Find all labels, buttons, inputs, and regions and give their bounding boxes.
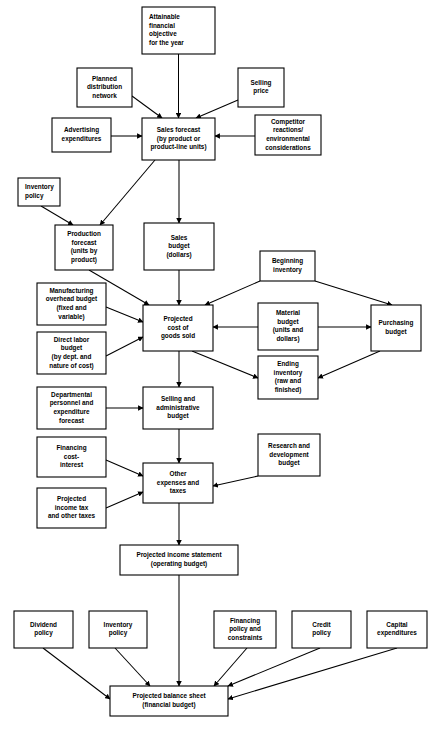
node-selling-price: Sellingprice <box>238 68 284 107</box>
node-label-attainable-financial-objective: financial <box>149 22 175 29</box>
edge-planned-distribution-to-sales-forecast <box>132 96 162 118</box>
node-departmental-personnel-forecast: Departmentalpersonnel andexpenditurefore… <box>37 387 106 429</box>
node-label-advertising-expenditures: Advertising <box>64 126 99 134</box>
node-label-attainable-financial-objective: for the year <box>149 39 184 47</box>
node-label-production-forecast: product) <box>71 256 97 264</box>
node-label-competitor-reactions: Competitor <box>271 118 306 126</box>
node-label-purchasing-budget: budget <box>385 328 407 336</box>
edge-cost-of-goods-to-ending-inventory <box>192 351 258 378</box>
node-label-projected-income-tax: Projected <box>57 495 86 503</box>
node-label-purchasing-budget: Purchasing <box>379 319 414 327</box>
node-label-material-budget: dollars) <box>276 335 299 343</box>
node-label-planned-distribution-network: distribution <box>87 83 122 90</box>
node-label-research-development-budget: Research and <box>268 442 310 449</box>
node-label-projected-income-statement: (operating budget) <box>151 560 207 568</box>
node-label-manufacturing-overhead-budget: (fixed and <box>56 304 86 312</box>
node-label-beginning-inventory: Beginning <box>272 257 303 265</box>
node-label-projected-balance-sheet: Projected balance sheet <box>132 692 206 700</box>
node-label-advertising-expenditures: expenditures <box>62 135 102 143</box>
node-projected-income-tax: Projectedincome taxand other taxes <box>37 488 106 528</box>
node-label-dividend-policy: Dividend <box>30 621 57 628</box>
node-label-beginning-inventory: inventory <box>273 266 302 274</box>
node-label-manufacturing-overhead-budget: Manufacturing <box>49 287 93 295</box>
node-label-projected-income-tax: and other taxes <box>48 512 96 519</box>
node-label-selling-price: price <box>253 87 269 95</box>
node-label-projected-income-tax: income tax <box>55 504 89 511</box>
node-label-inventory-policy-bottom: policy <box>109 629 128 637</box>
node-label-sales-forecast: Sales forecast <box>157 126 201 133</box>
node-sales-forecast: Sales forecast(by product orproduct-line… <box>142 118 215 160</box>
edge-sales-forecast-to-production-forecast <box>100 160 155 225</box>
edge-inventory-policy-bottom-to-balance-sheet <box>115 648 150 686</box>
node-label-material-budget: Material <box>276 309 300 316</box>
node-label-production-forecast: Production <box>67 230 101 237</box>
node-dividend-policy: Dividendpolicy <box>14 611 73 648</box>
node-research-development-budget: Research anddevelopmentbudget <box>258 434 320 476</box>
node-beginning-inventory: Beginninginventory <box>260 251 315 281</box>
edge-manufacturing-overhead-to-cost-of-goods <box>106 307 143 322</box>
node-label-direct-labor-budget: (by dept. and <box>52 353 92 361</box>
node-sales-budget: Salesbudget(dollars) <box>144 223 214 270</box>
node-label-credit-policy: policy <box>312 629 331 637</box>
node-label-financing-cost-interest: Financing <box>56 444 86 452</box>
node-label-production-forecast: (units by <box>71 247 98 255</box>
node-label-production-forecast: forecast <box>72 239 98 246</box>
node-label-selling-price: Selling <box>251 79 272 87</box>
node-label-manufacturing-overhead-budget: overhead budget <box>46 295 98 303</box>
node-label-sales-budget: Sales <box>171 234 188 241</box>
node-label-dividend-policy: policy <box>34 629 53 637</box>
node-competitor-reactions: Competitorreactions/environmentalconside… <box>255 115 321 155</box>
node-label-attainable-financial-objective: objective <box>149 30 177 38</box>
node-label-projected-income-statement: Projected income statement <box>136 551 222 559</box>
node-label-competitor-reactions: environmental <box>266 135 310 142</box>
edge-beginning-inventory-to-purchasing <box>315 281 392 305</box>
node-label-ending-inventory: (raw and <box>275 377 301 385</box>
node-label-financing-cost-interest: cost- <box>64 453 79 460</box>
node-inventory-policy-bottom: Inventorypolicy <box>89 611 147 648</box>
node-projected-income-statement: Projected income statement(operating bud… <box>120 545 238 575</box>
node-label-sales-forecast: product-line units) <box>150 143 206 151</box>
node-financing-cost-interest: Financingcost-interest <box>37 437 106 477</box>
node-label-sales-budget: (dollars) <box>166 251 191 259</box>
node-manufacturing-overhead-budget: Manufacturingoverhead budget(fixed andva… <box>37 283 106 325</box>
node-label-financing-policy-constraints: policy and <box>229 625 261 633</box>
node-financing-policy-constraints: Financingpolicy andconstraints <box>214 611 276 648</box>
edge-research-dev-to-other-expenses <box>213 476 258 486</box>
edge-purchasing-to-ending-inventory <box>318 351 380 378</box>
node-label-sales-forecast: (by product or <box>157 135 201 143</box>
node-label-planned-distribution-network: Planned <box>92 75 117 82</box>
flowchart-canvas: Attainablefinancialobjectivefor the year… <box>0 0 442 735</box>
node-label-departmental-personnel-forecast: expenditure <box>53 408 90 416</box>
edge-direct-labor-to-cost-of-goods <box>106 337 143 356</box>
node-attainable-financial-objective: Attainablefinancialobjectivefor the year <box>142 7 215 54</box>
node-label-capital-expenditures: Capital <box>386 621 408 629</box>
node-label-ending-inventory: finished) <box>275 386 302 394</box>
node-label-inventory-policy-top: policy <box>25 192 44 200</box>
node-other-expenses-and-taxes: Otherexpenses andtaxes <box>143 463 213 503</box>
node-label-selling-administrative-budget: Selling and <box>161 395 195 403</box>
node-label-other-expenses-and-taxes: expenses and <box>157 479 199 487</box>
node-label-direct-labor-budget: nature of cost) <box>49 362 93 370</box>
node-label-inventory-policy-top: Inventory <box>25 183 54 191</box>
node-label-projected-cost-of-goods-sold: goods sold <box>161 332 195 340</box>
node-credit-policy: Creditpolicy <box>292 611 351 648</box>
node-label-inventory-policy-bottom: Inventory <box>104 621 133 629</box>
node-label-financing-cost-interest: interest <box>60 461 84 468</box>
node-label-material-budget: (units and <box>273 326 304 334</box>
node-label-projected-balance-sheet: (financial budget) <box>142 701 195 709</box>
node-label-manufacturing-overhead-budget: variable) <box>58 313 84 321</box>
node-direct-labor-budget: Direct laborbudget(by dept. andnature of… <box>37 332 106 374</box>
node-label-sales-budget: budget <box>168 242 190 250</box>
edge-beginning-inventory-to-cost-of-goods <box>205 281 260 305</box>
node-ending-inventory: Endinginventory(raw andfinished) <box>258 356 318 399</box>
nodes-layer: Attainablefinancialobjectivefor the year… <box>14 7 427 716</box>
budget-flowchart-diagram: Attainablefinancialobjectivefor the year… <box>0 0 442 735</box>
node-inventory-policy-top: Inventorypolicy <box>18 178 60 206</box>
edge-capital-expenditures-to-balance-sheet <box>228 648 397 699</box>
node-label-departmental-personnel-forecast: personnel and <box>50 399 94 407</box>
node-label-selling-administrative-budget: budget <box>167 412 189 420</box>
node-projected-balance-sheet: Projected balance sheet(financial budget… <box>110 686 228 716</box>
node-projected-cost-of-goods-sold: Projectedcost ofgoods sold <box>143 305 213 351</box>
edge-projected-income-tax-to-other-expenses <box>106 492 143 508</box>
node-label-material-budget: budget <box>277 318 299 326</box>
